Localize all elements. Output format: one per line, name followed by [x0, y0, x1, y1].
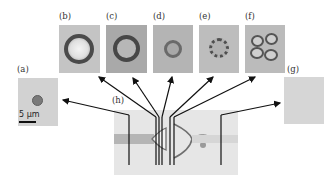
arrow-overlay	[0, 0, 335, 185]
